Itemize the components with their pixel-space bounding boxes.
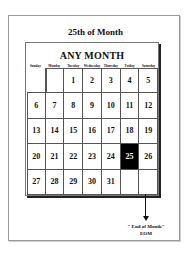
day-cell: 23 bbox=[83, 144, 102, 169]
day-cell-empty bbox=[27, 68, 46, 93]
day-cell: 17 bbox=[102, 119, 121, 144]
day-cell: 26 bbox=[139, 144, 158, 169]
arrow-down-icon bbox=[145, 194, 146, 217]
day-cell: 8 bbox=[64, 93, 83, 118]
day-cell: 16 bbox=[83, 119, 102, 144]
month-title: ANY MONTH bbox=[26, 50, 158, 61]
day-cell: 9 bbox=[83, 93, 102, 118]
calendar-grid: 1 2 3 4 5 6 7 8 9 10 11 12 13 14 15 16 1… bbox=[27, 68, 158, 195]
day-cell: 18 bbox=[121, 119, 140, 144]
day-cell-highlighted-eom: 25 bbox=[121, 144, 140, 169]
day-cell: 14 bbox=[46, 119, 65, 144]
day-cell: 21 bbox=[46, 144, 65, 169]
day-cell: 1 bbox=[64, 68, 83, 93]
page-title: 25th of Month bbox=[0, 27, 191, 37]
eom-label-short: EOM bbox=[115, 231, 177, 238]
day-cell: 12 bbox=[139, 93, 158, 118]
day-cell-empty bbox=[139, 170, 158, 195]
day-cell: 19 bbox=[139, 119, 158, 144]
day-cell bbox=[46, 68, 65, 93]
day-cell: 2 bbox=[83, 68, 102, 93]
day-cell-empty bbox=[121, 170, 140, 195]
day-cell: 4 bbox=[121, 68, 140, 93]
day-cell: 20 bbox=[27, 144, 46, 169]
day-cell: 30 bbox=[83, 170, 102, 195]
day-cell: 24 bbox=[102, 144, 121, 169]
day-cell: 6 bbox=[27, 93, 46, 118]
day-cell: 15 bbox=[64, 119, 83, 144]
day-cell: 22 bbox=[64, 144, 83, 169]
day-cell: 29 bbox=[64, 170, 83, 195]
day-cell: 28 bbox=[46, 170, 65, 195]
day-cell: 31 bbox=[102, 170, 121, 195]
day-cell: 10 bbox=[102, 93, 121, 118]
eom-annotation: " End of Month" EOM bbox=[115, 224, 177, 237]
day-cell: 7 bbox=[46, 93, 65, 118]
calendar: ANY MONTH Sunday Monday Tuesday Wednesda… bbox=[25, 42, 159, 196]
day-cell: 5 bbox=[139, 68, 158, 93]
arrow-head-icon bbox=[143, 216, 149, 221]
day-cell: 3 bbox=[102, 68, 121, 93]
day-cell: 13 bbox=[27, 119, 46, 144]
day-cell: 27 bbox=[27, 170, 46, 195]
day-cell: 11 bbox=[121, 93, 140, 118]
